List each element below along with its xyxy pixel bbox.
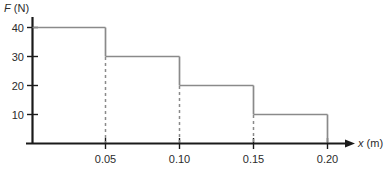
x-tick-label-010: 0.10 [169, 153, 190, 165]
y-axis-title: F (N) [4, 2, 29, 14]
x-axis-arrow-icon [345, 140, 355, 148]
x-axis-title: x (m) [357, 137, 383, 149]
x-tick-label-005: 0.05 [95, 153, 116, 165]
x-tick-label-020: 0.20 [317, 153, 338, 165]
x-tick-label-015: 0.15 [243, 153, 264, 165]
x-axis-title-unit: (m) [367, 137, 384, 149]
force-displacement-chart: F (N) 40 30 20 10 0.05 0.10 0.15 0.20 [0, 0, 385, 174]
y-tick-label-40: 40 [12, 22, 24, 34]
y-tick-label-30: 30 [12, 51, 24, 63]
chart-canvas: F (N) 40 30 20 10 0.05 0.10 0.15 0.20 [0, 0, 385, 174]
y-tick-label-20: 20 [12, 80, 24, 92]
y-tick-label-10: 10 [12, 109, 24, 121]
y-axis-title-unit: (N) [14, 2, 29, 14]
